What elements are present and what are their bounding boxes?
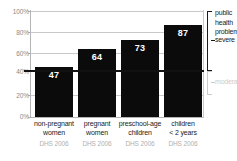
bar-value-label: 87 xyxy=(164,28,202,38)
y-tick-label-20: 20% xyxy=(1,92,29,99)
bar-non-pregnant-women: 47 xyxy=(35,67,73,117)
y-tick-label-80: 80% xyxy=(1,29,29,36)
label-moderate: moderate xyxy=(215,78,237,85)
y-axis-ticks: 100% 80% 60% 40% 20% 0% xyxy=(0,0,29,161)
bar-value-label: 73 xyxy=(121,43,159,53)
bar-preschool-age-children: 73 xyxy=(121,40,159,117)
y-tick-label-0: 0% xyxy=(1,113,29,120)
category-label-line-1: children xyxy=(156,119,210,128)
bar-pregnant-women: 64 xyxy=(78,49,116,117)
x-axis-category-labels: non-pregnant women DHS 2006 pregnant wom… xyxy=(31,119,204,161)
right-axis-line xyxy=(203,10,204,118)
php-line-2: health xyxy=(215,18,237,28)
x-axis-line xyxy=(31,117,204,118)
y-tick-label-100: 100% xyxy=(1,8,29,15)
plot-area: 47 64 73 87 xyxy=(31,11,203,117)
bar-value-label: 64 xyxy=(78,52,116,62)
gridline-100 xyxy=(31,11,203,12)
category-source-label: DHS 2006 xyxy=(156,139,210,148)
label-severe: severe xyxy=(215,36,235,43)
threshold-line-40-percent xyxy=(24,70,204,72)
php-line-1: public xyxy=(215,8,237,18)
label-public-health-problem: public health problem xyxy=(215,8,237,37)
category-label-line-2: < 2 years xyxy=(156,128,210,137)
category-children-under-2-years: children < 2 years DHS 2006 xyxy=(156,119,210,148)
bar-chart-figure: 100% 80% 60% 40% 20% 0% 47 64 73 87 xyxy=(0,0,237,161)
y-tick-label-60: 60% xyxy=(1,50,29,57)
